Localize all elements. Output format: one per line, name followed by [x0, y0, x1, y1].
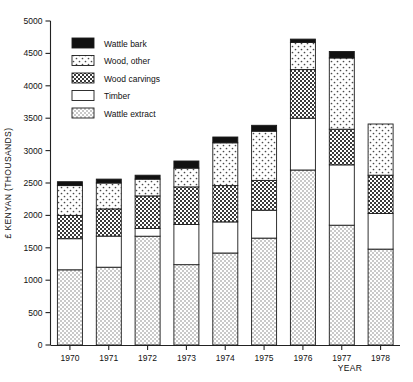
bar-1977[interactable] [329, 52, 354, 346]
y-tick-label: 1000 [24, 275, 43, 285]
x-tick-label: 1973 [177, 353, 196, 363]
bar-segment-wattle-extract[interactable] [329, 225, 354, 345]
bar-segment-wood-other[interactable] [213, 143, 238, 186]
y-tick-label: 5000 [24, 16, 43, 26]
bar-segment-wood-other[interactable] [174, 168, 199, 187]
y-tick-label: 4000 [24, 81, 43, 91]
bar-segment-wattle-bark[interactable] [135, 175, 160, 179]
bar-segment-timber[interactable] [57, 239, 82, 270]
bar-segment-wattle-extract[interactable] [252, 238, 277, 345]
legend-swatch-wattle-extract [72, 108, 94, 118]
legend-swatch-timber [72, 91, 94, 101]
bar-segment-timber[interactable] [368, 214, 393, 250]
x-tick-label: 1976 [293, 353, 312, 363]
bar-segment-wattle-bark[interactable] [57, 182, 82, 186]
bar-segment-wood-other[interactable] [57, 186, 82, 216]
bars-group [57, 39, 393, 345]
x-tick-label: 1975 [255, 353, 274, 363]
bar-segment-wood-carvings[interactable] [96, 209, 121, 236]
chart-container: 0500100015002000250030003500400045005000… [0, 0, 413, 382]
y-tick-label: 3000 [24, 146, 43, 156]
bar-1970[interactable] [57, 182, 82, 345]
bar-segment-wattle-extract[interactable] [290, 170, 315, 345]
bar-1976[interactable] [290, 39, 315, 345]
bar-segment-wood-other[interactable] [329, 58, 354, 129]
y-tick-label: 2500 [24, 178, 43, 188]
x-tick-label: 1974 [216, 353, 235, 363]
legend-label: Timber [104, 91, 130, 101]
x-tick-label: 1972 [138, 353, 157, 363]
stacked-bar-chart: 0500100015002000250030003500400045005000… [0, 0, 413, 382]
bar-segment-wood-other[interactable] [96, 183, 121, 209]
bar-segment-wood-carvings[interactable] [57, 215, 82, 238]
y-tick-label: 2000 [24, 210, 43, 220]
y-axis-title: £ KENYAN (THOUSANDS) [3, 128, 13, 239]
bar-segment-wood-carvings[interactable] [368, 175, 393, 213]
x-tick-label: 1970 [60, 353, 79, 363]
bar-segment-wattle-extract[interactable] [135, 236, 160, 345]
bar-1978[interactable] [368, 124, 393, 345]
legend-swatch-wood-other [72, 56, 94, 66]
legend-label: Wattle bark [104, 39, 147, 49]
x-tick-label: 1978 [371, 353, 390, 363]
legend-swatch-wattle-bark [72, 38, 94, 48]
x-axis-ticks: 197019711972197319741975197619771978 [60, 345, 390, 363]
bar-segment-wattle-bark[interactable] [96, 179, 121, 183]
bar-segment-timber[interactable] [213, 222, 238, 253]
y-tick-label: 4500 [24, 48, 43, 58]
bar-segment-timber[interactable] [290, 118, 315, 170]
x-tick-label: 1971 [99, 353, 118, 363]
bar-segment-wattle-bark[interactable] [213, 137, 238, 143]
bar-segment-timber[interactable] [174, 225, 199, 265]
y-tick-label: 1500 [24, 243, 43, 253]
x-axis-title: YEAR [338, 363, 363, 373]
bar-segment-timber[interactable] [252, 210, 277, 238]
legend-label: Wattle extract [104, 109, 156, 119]
x-tick-label: 1977 [332, 353, 351, 363]
legend-swatch-wood-carvings [72, 73, 94, 83]
bar-segment-wood-carvings[interactable] [135, 196, 160, 228]
bar-segment-wood-other[interactable] [252, 131, 277, 180]
y-tick-label: 3500 [24, 113, 43, 123]
bar-segment-wood-carvings[interactable] [213, 186, 238, 222]
legend-label: Wood, other [104, 56, 150, 66]
legend: Wattle barkWood, otherWood carvingsTimbe… [72, 38, 160, 119]
bar-segment-wattle-extract[interactable] [368, 249, 393, 345]
bar-segment-wattle-bark[interactable] [290, 39, 315, 42]
bar-segment-wood-other[interactable] [290, 42, 315, 69]
bar-segment-wood-carvings[interactable] [329, 129, 354, 165]
bar-segment-wood-other[interactable] [368, 124, 393, 175]
legend-label: Wood carvings [104, 74, 160, 84]
bar-segment-wattle-bark[interactable] [329, 52, 354, 59]
bar-segment-wattle-extract[interactable] [213, 253, 238, 345]
bar-segment-timber[interactable] [329, 165, 354, 225]
bar-segment-timber[interactable] [135, 228, 160, 236]
bar-segment-wood-carvings[interactable] [174, 187, 199, 225]
bar-segment-wood-other[interactable] [135, 179, 160, 196]
bar-segment-wattle-bark[interactable] [174, 161, 199, 168]
bar-1971[interactable] [96, 179, 121, 345]
y-tick-label: 500 [28, 308, 42, 318]
y-axis-ticks: 0500100015002000250030003500400045005000 [24, 16, 51, 350]
bar-segment-wattle-extract[interactable] [174, 265, 199, 345]
bar-segment-wattle-extract[interactable] [57, 270, 82, 345]
bar-1973[interactable] [174, 161, 199, 345]
bar-1974[interactable] [213, 137, 238, 345]
bar-segment-wood-carvings[interactable] [252, 180, 277, 210]
bar-1972[interactable] [135, 175, 160, 345]
y-tick-label: 0 [38, 340, 43, 350]
bar-segment-timber[interactable] [96, 236, 121, 267]
bar-1975[interactable] [252, 125, 277, 345]
bar-segment-wattle-extract[interactable] [96, 267, 121, 345]
bar-segment-wattle-bark[interactable] [252, 125, 277, 131]
bar-segment-wood-carvings[interactable] [290, 70, 315, 119]
